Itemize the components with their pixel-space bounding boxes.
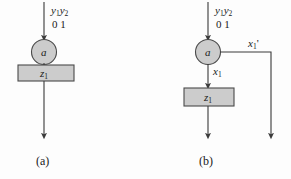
panel-b-input-values-label: 0 1 bbox=[216, 19, 230, 30]
panel-b-x1-branch-label: x1 bbox=[213, 66, 222, 79]
panel-b-state-node-label: a bbox=[205, 47, 211, 58]
figure-canvas: y1y2 0 1 a z1 (a) y1y2 0 1 a x1 x1' z1 (… bbox=[0, 0, 291, 179]
panel-a-caption: (a) bbox=[36, 155, 49, 167]
panel-a-input-values-label: 0 1 bbox=[52, 19, 66, 30]
panel-b-caption: (b) bbox=[199, 155, 213, 167]
prime-mark: ' bbox=[257, 37, 259, 49]
panel-a-output-box-label: z1 bbox=[40, 68, 48, 81]
panel-b-input-variables-label: y1y2 bbox=[215, 5, 232, 18]
panel-a-input-variables-label: y1y2 bbox=[51, 5, 68, 18]
panel-b-x1-prime-branch-label: x1' bbox=[248, 38, 259, 51]
diagram-svg bbox=[0, 0, 291, 179]
panel-b-output-box-label: z1 bbox=[204, 92, 212, 105]
panel-a-state-node-label: a bbox=[41, 47, 47, 58]
